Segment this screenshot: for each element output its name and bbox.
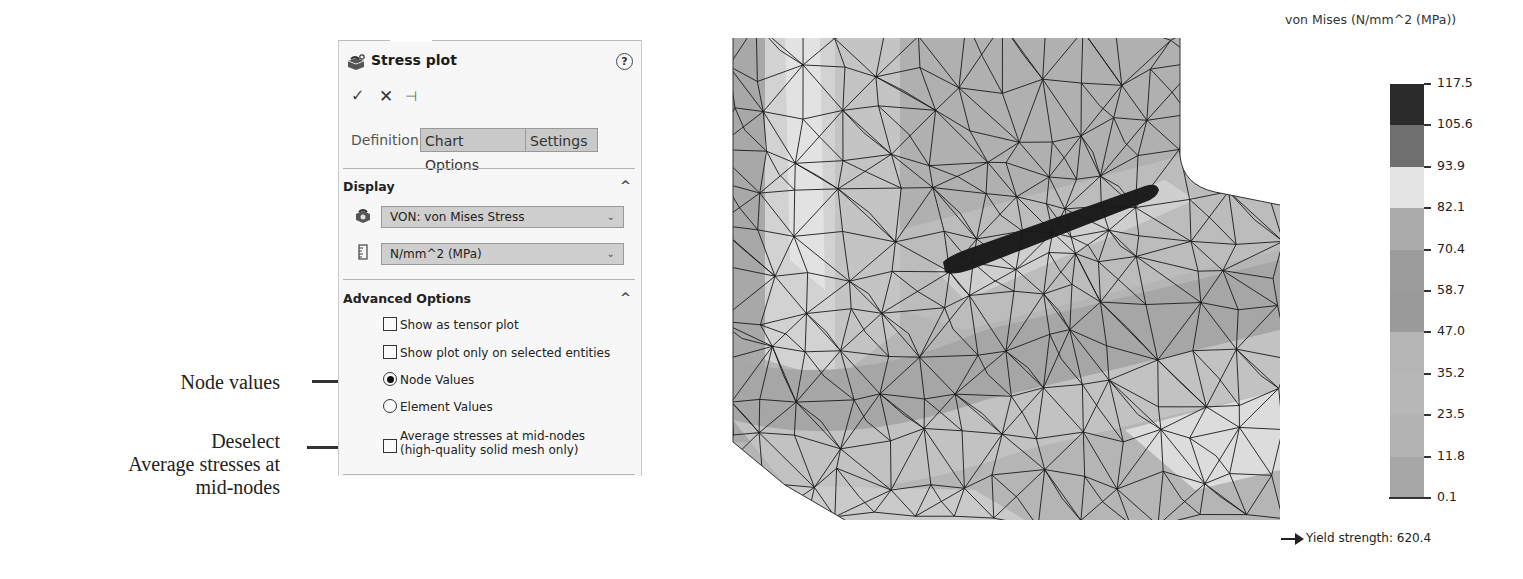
part-surface <box>725 30 1280 520</box>
panel-top-border <box>338 40 641 41</box>
option-label: Show as tensor plot <box>400 316 519 334</box>
average-mid-nodes-checkbox[interactable] <box>383 439 397 453</box>
option-label-secondary: (high-quality solid mesh only) <box>400 441 579 459</box>
legend-tick <box>1424 373 1431 375</box>
show-tensor-plot-checkbox[interactable] <box>383 317 397 331</box>
legend-tick-label: 0.1 <box>1437 489 1457 504</box>
legend-tick-label: 11.8 <box>1437 448 1465 463</box>
legend-tick-label: 117.5 <box>1437 75 1473 90</box>
stress-plot-property-manager: Stress plot ? ✓ ✕ ⊣ Definition Chart Opt… <box>338 40 642 476</box>
legend-band <box>1390 374 1424 416</box>
stress-plot-mesh-view[interactable] <box>725 30 1280 520</box>
tab-settings[interactable]: Settings <box>526 128 598 152</box>
tab-definition[interactable]: Definition <box>347 128 420 152</box>
divider <box>343 279 635 280</box>
option-label: Show plot only on selected entities <box>400 344 610 362</box>
annotation-line: mid-nodes <box>40 476 280 499</box>
legend-tick <box>1424 83 1431 85</box>
legend-band <box>1390 167 1424 209</box>
legend-tick-label: 70.4 <box>1437 241 1465 256</box>
element-values-radio[interactable] <box>383 399 397 413</box>
option-label: Element Values <box>400 398 493 416</box>
panel-top-border-gap <box>390 39 432 42</box>
legend-band <box>1390 84 1424 126</box>
yield-strength-label: Yield strength: 620.4 <box>1306 531 1431 545</box>
legend-tick <box>1424 207 1431 209</box>
show-selected-entities-checkbox[interactable] <box>383 345 397 359</box>
annotation-node-values: Node values <box>100 371 280 394</box>
legend-tick <box>1424 249 1431 251</box>
stress-plot-icon <box>347 54 365 70</box>
divider <box>343 474 635 475</box>
legend-tick-label: 82.1 <box>1437 199 1465 214</box>
cancel-x-icon[interactable]: ✕ <box>379 86 393 106</box>
tab-chart-options[interactable]: Chart Options <box>420 128 526 152</box>
legend-color-bar <box>1390 84 1424 498</box>
legend-tick <box>1424 331 1431 333</box>
legend-band <box>1390 125 1424 167</box>
help-icon[interactable]: ? <box>616 53 633 70</box>
legend-title: von Mises (N/mm^2 (MPa)) <box>1285 12 1456 27</box>
panel-title: Stress plot <box>371 52 457 68</box>
pushpin-icon[interactable]: ⊣ <box>405 88 417 104</box>
legend-tick-label: 93.9 <box>1437 158 1465 173</box>
legend-tick <box>1424 290 1431 292</box>
panel-tabs: Definition Chart Options Settings <box>347 128 641 152</box>
node-values-radio[interactable] <box>383 372 397 386</box>
stress-component-value: VON: von Mises Stress <box>390 210 524 224</box>
option-label: Node Values <box>400 371 474 389</box>
legend-tick-label: 105.6 <box>1437 116 1473 131</box>
chevron-down-icon: ⌄ <box>607 207 615 227</box>
stress-component-select[interactable]: VON: von Mises Stress ⌄ <box>381 206 624 228</box>
legend-tick <box>1424 124 1431 126</box>
advanced-options-heading: Advanced Options <box>343 291 471 306</box>
units-select[interactable]: N/mm^2 (MPa) ⌄ <box>381 243 624 265</box>
legend-tick <box>1424 456 1431 458</box>
legend-tick-label: 58.7 <box>1437 282 1465 297</box>
units-value: N/mm^2 (MPa) <box>390 247 482 261</box>
divider <box>343 168 635 169</box>
legend-tick-label: 23.5 <box>1437 406 1465 421</box>
display-section-header[interactable]: Display ^ <box>343 179 631 197</box>
legend-tick <box>1424 166 1431 168</box>
legend-tick-label: 35.2 <box>1437 365 1465 380</box>
legend-band <box>1390 291 1424 333</box>
panel-title-row: Stress plot ? <box>347 52 633 74</box>
chevron-down-icon: ⌄ <box>607 244 615 264</box>
legend-tick <box>1424 414 1431 416</box>
legend-band <box>1390 457 1424 499</box>
yield-arrow-icon <box>1281 538 1297 540</box>
annotation-line: Deselect <box>40 430 280 453</box>
legend-bottom-tick <box>1389 497 1431 499</box>
annotation-line: Average stresses at <box>40 453 280 476</box>
legend-band <box>1390 415 1424 457</box>
chevron-up-icon[interactable]: ^ <box>620 290 631 305</box>
chevron-up-icon[interactable]: ^ <box>620 178 631 193</box>
legend-band <box>1390 208 1424 250</box>
annotation-deselect-average: Deselect Average stresses at mid-nodes <box>40 430 280 499</box>
legend-band <box>1390 250 1424 292</box>
legend-tick-label: 47.0 <box>1437 323 1465 338</box>
legend-band <box>1390 332 1424 374</box>
units-ruler-icon <box>355 244 371 260</box>
stress-component-icon <box>355 208 371 224</box>
advanced-options-header[interactable]: Advanced Options ^ <box>343 291 631 309</box>
ok-checkmark-icon[interactable]: ✓ <box>351 86 364 105</box>
display-heading: Display <box>343 179 395 194</box>
